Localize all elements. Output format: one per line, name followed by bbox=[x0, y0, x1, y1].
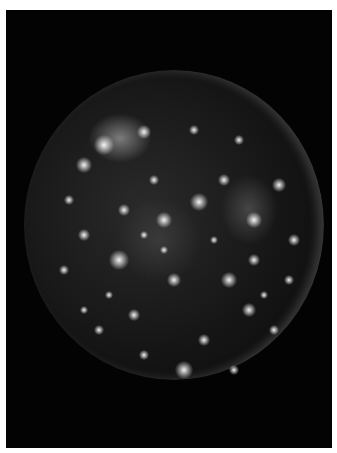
crater-spot bbox=[229, 365, 239, 375]
crater-spot bbox=[140, 231, 148, 239]
crater-spot bbox=[242, 303, 256, 317]
crater-spot bbox=[139, 350, 149, 360]
crater-spot bbox=[59, 265, 69, 275]
crater-spot bbox=[210, 236, 218, 244]
moon-disk bbox=[24, 70, 324, 380]
crater-spot bbox=[64, 195, 74, 205]
crater-spot bbox=[105, 291, 113, 299]
crater-spot bbox=[94, 325, 104, 335]
crater-spot bbox=[189, 125, 199, 135]
crater-spot bbox=[156, 212, 172, 228]
crater-spot bbox=[272, 178, 286, 192]
crater-spot bbox=[78, 229, 90, 241]
crater-spot bbox=[284, 275, 294, 285]
crater-spot bbox=[175, 361, 193, 379]
crater-spot bbox=[167, 273, 181, 287]
crater-spot bbox=[160, 246, 168, 254]
crater-spot bbox=[234, 135, 244, 145]
crater-spot bbox=[137, 125, 151, 139]
crater-spot bbox=[269, 325, 279, 335]
crater-spot bbox=[190, 193, 208, 211]
crater-spot bbox=[248, 254, 260, 266]
crater-spot bbox=[118, 204, 130, 216]
crater-spot bbox=[246, 212, 262, 228]
crater-spot bbox=[149, 175, 159, 185]
crater-spot bbox=[221, 272, 237, 288]
crater-spot bbox=[218, 174, 230, 186]
crater-spot bbox=[128, 309, 140, 321]
photo-frame bbox=[6, 10, 332, 448]
crater-spot bbox=[288, 234, 300, 246]
crater-spot bbox=[109, 250, 129, 270]
crater-spot bbox=[94, 135, 114, 155]
crater-spot bbox=[80, 306, 88, 314]
crater-spot bbox=[76, 157, 92, 173]
crater-spot bbox=[198, 334, 210, 346]
crater-spot bbox=[260, 291, 268, 299]
